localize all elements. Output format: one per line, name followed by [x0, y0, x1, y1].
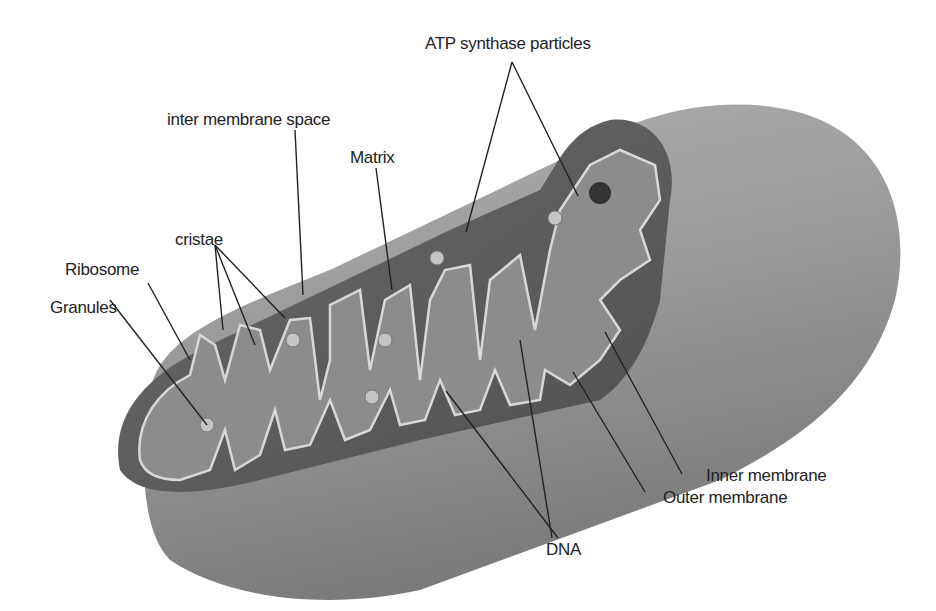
label-granules: Granules — [50, 298, 117, 318]
label-ribosome: Ribosome — [65, 260, 139, 280]
label-dna: DNA — [546, 540, 581, 560]
dark-granule — [589, 182, 611, 204]
label-outer-membrane: Outer membrane — [663, 488, 787, 508]
label-matrix: Matrix — [350, 148, 394, 168]
label-inner-membrane: Inner membrane — [706, 466, 827, 486]
label-inter-membrane-space: inter membrane space — [167, 110, 330, 130]
label-cristae: cristae — [175, 230, 223, 250]
mitochondrion-diagram — [0, 0, 936, 611]
label-atp-synthase: ATP synthase particles — [425, 34, 591, 54]
